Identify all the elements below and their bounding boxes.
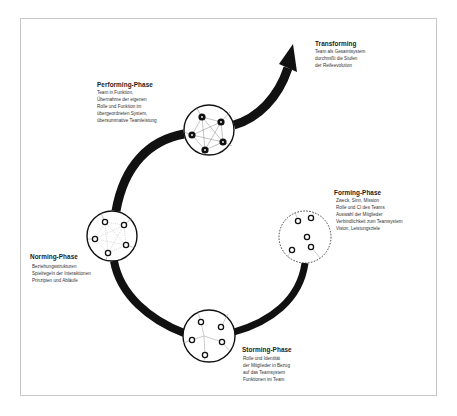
team-member-icon	[121, 222, 126, 227]
storming-line: Rolle und Identität	[242, 355, 292, 362]
norming-line: Spielregeln der Interaktionen	[30, 270, 91, 277]
performing-line: Team in Funktion,	[97, 89, 157, 96]
team-member-icon	[218, 324, 223, 329]
team-member-icon	[308, 244, 313, 249]
team-member-icon	[123, 242, 128, 247]
team-member-icon	[102, 219, 107, 224]
forming-line: Verbindlichkeit zum Teamsystem	[334, 218, 403, 225]
forming-label: Forming-Phase Zweck, Sinn, Mission Rolle…	[334, 189, 403, 232]
team-member-icon	[202, 352, 207, 357]
team-member-icon	[92, 236, 97, 241]
norming-title: Norming-Phase	[30, 253, 91, 261]
team-member-icon	[198, 319, 203, 324]
performing-title: Performing-Phase	[97, 81, 157, 89]
transforming-label: Transforming Team als Gesamtsystem durch…	[315, 40, 365, 69]
transforming-line: durchmißt die Stufen	[315, 55, 365, 62]
norming-circle	[87, 211, 137, 261]
storming-title: Storming-Phase	[242, 346, 292, 354]
storming-line: auf das Teamsystem	[242, 369, 292, 376]
performing-line: übersummative Teamleistung	[97, 117, 157, 124]
storming-line: Funktionen im Team	[242, 376, 292, 383]
arrow-up-right-icon	[279, 44, 297, 72]
team-member-icon	[289, 247, 294, 252]
storming-line: der Mitglieder in Bezug	[242, 362, 292, 369]
norming-line: Prinzipien und Abläufe	[30, 277, 91, 284]
team-member-icon	[295, 218, 300, 223]
transforming-title: Transforming	[315, 40, 365, 48]
performing-label: Performing-Phase Team in Funktion, Übern…	[97, 81, 157, 124]
storming-circle	[183, 310, 235, 362]
performing-line: übergeordneten System,	[97, 110, 157, 117]
team-member-icon	[189, 337, 194, 342]
forming-circle	[279, 211, 331, 263]
storming-label: Storming-Phase Rolle und Identität der M…	[242, 346, 292, 383]
forming-title: Forming-Phase	[334, 189, 403, 197]
performing-line: Rolle und Funktion im	[97, 103, 157, 110]
forming-line: Vision, Leistungsziele	[334, 225, 403, 232]
forming-line: Zweck, Sinn, Mission	[334, 197, 403, 204]
performing-line: Übernahme der eigenen	[97, 96, 157, 103]
norming-label: Norming-Phase Beziehungsstrukturen Spiel…	[30, 253, 91, 284]
forming-line: Rolle und CI des Teams	[334, 204, 403, 211]
team-member-icon	[308, 215, 313, 220]
performing-circle	[184, 105, 234, 155]
transforming-line: der Reifeevolution	[315, 62, 365, 69]
transforming-line: Team als Gesamtsystem	[315, 48, 365, 55]
norming-line: Beziehungsstrukturen	[30, 263, 91, 270]
forming-line: Auswahl der Mitglieder	[334, 211, 403, 218]
team-member-icon	[304, 234, 309, 239]
team-member-icon	[219, 339, 224, 344]
team-member-icon	[105, 250, 110, 255]
